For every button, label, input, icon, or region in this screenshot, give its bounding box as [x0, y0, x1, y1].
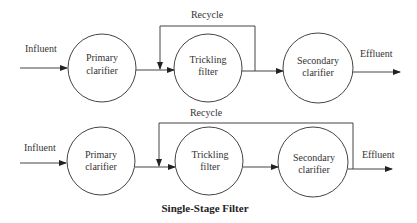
- effluent-label: Effluent: [362, 149, 395, 160]
- diagram-bottom: [20, 123, 392, 197]
- influent-label: Influent: [25, 43, 57, 54]
- primary-clarifier-label-2: clarifier: [86, 65, 118, 76]
- secondary-clarifier-label-1: Secondary: [293, 152, 335, 163]
- primary-clarifier-label-1: Primary: [86, 52, 118, 63]
- primary-clarifier-label-2: clarifier: [85, 161, 117, 172]
- flow-diagram: Influent Primary clarifier Trickling fil…: [0, 0, 417, 223]
- influent-label: Influent: [24, 142, 56, 153]
- trickling-filter-label-2: filter: [198, 66, 218, 77]
- secondary-clarifier-label-2: clarifier: [302, 67, 334, 78]
- trickling-filter-label-1: Trickling: [190, 54, 227, 65]
- trickling-filter-label-1: Trickling: [192, 149, 229, 160]
- secondary-clarifier-label-2: clarifier: [298, 164, 330, 175]
- recycle-label: Recycle: [191, 9, 224, 20]
- diagram-caption: Single-Stage Filter: [161, 202, 248, 214]
- effluent-label: Effluent: [360, 48, 393, 59]
- recycle-label: Recycle: [190, 107, 223, 118]
- secondary-clarifier-label-1: Secondary: [297, 55, 339, 66]
- trickling-filter-label-2: filter: [200, 161, 220, 172]
- primary-clarifier-label-1: Primary: [85, 149, 117, 160]
